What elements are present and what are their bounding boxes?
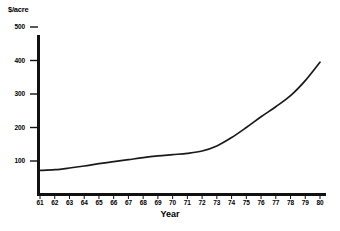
x-tick-label: 64 (77, 199, 91, 207)
x-tick-label: 66 (107, 199, 121, 207)
x-tick-label: 71 (180, 199, 194, 207)
line-chart-plot (0, 0, 340, 231)
y-tick-label: 300 (3, 90, 25, 98)
x-tick-label: 65 (92, 199, 106, 207)
data-series-group (40, 62, 320, 170)
x-tick-label: 79 (298, 199, 312, 207)
y-tick-marks (30, 27, 38, 161)
x-tick-label: 70 (166, 199, 180, 207)
x-tick-label: 80 (313, 199, 327, 207)
x-tick-label: 76 (254, 199, 268, 207)
x-tick-label: 78 (284, 199, 298, 207)
chart-container: $/acre 100200300400500 61626364656667686… (0, 0, 340, 231)
series-line (40, 62, 320, 170)
x-tick-label: 75 (239, 199, 253, 207)
x-tick-label: 62 (48, 199, 62, 207)
x-tick-label: 73 (210, 199, 224, 207)
x-tick-label: 69 (151, 199, 165, 207)
y-tick-label: 200 (3, 124, 25, 132)
x-tick-label: 77 (269, 199, 283, 207)
x-tick-label: 67 (121, 199, 135, 207)
x-tick-label: 61 (33, 199, 47, 207)
x-axis-title: Year (0, 208, 340, 220)
x-tick-label: 72 (195, 199, 209, 207)
x-tick-label: 63 (62, 199, 76, 207)
x-tick-label: 74 (225, 199, 239, 207)
x-tick-label: 68 (136, 199, 150, 207)
y-tick-label: 400 (3, 57, 25, 65)
axes-group (37, 35, 326, 196)
y-tick-label: 100 (3, 157, 25, 165)
y-tick-label: 500 (3, 23, 25, 31)
